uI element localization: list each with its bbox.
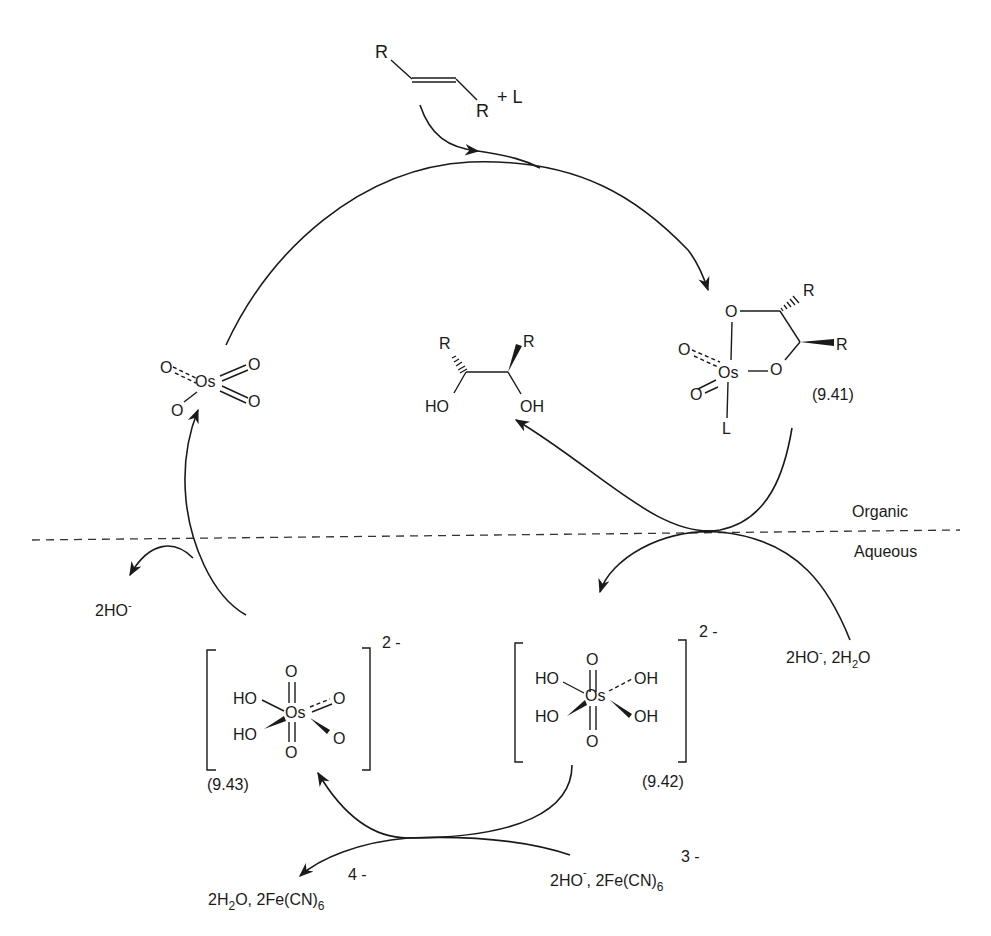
svg-text:R: R bbox=[803, 282, 815, 299]
svg-text:Os: Os bbox=[585, 687, 605, 704]
phase-boundary-line bbox=[32, 530, 960, 540]
svg-text:OH: OH bbox=[634, 670, 658, 687]
aq-inputs-right: 2HO-, 2H2O bbox=[786, 646, 871, 670]
label-9-42: (9.42) bbox=[642, 773, 684, 790]
svg-text:R: R bbox=[523, 333, 535, 350]
alkene-reactant: R R + L bbox=[375, 42, 523, 121]
svg-text:Os: Os bbox=[718, 364, 738, 381]
charge-943: 2 - bbox=[382, 634, 401, 651]
svg-text:OH: OH bbox=[634, 708, 658, 725]
osmium-tetroxide: O Os O O O bbox=[160, 356, 260, 419]
phase-label-aqueous: Aqueous bbox=[854, 543, 917, 560]
arc-ferricyanide-reduction bbox=[300, 837, 570, 876]
arc-943-to-oso4 bbox=[185, 410, 246, 615]
hydroxide-released: 2HO- bbox=[95, 599, 132, 619]
svg-text:O: O bbox=[690, 386, 702, 403]
arc-oso4-to-ester bbox=[226, 162, 708, 345]
oxidant-in-charge: 3 - bbox=[681, 848, 700, 865]
osmate-ester-9-41: O R R O Os O O L (9.41) bbox=[678, 282, 854, 437]
svg-text:O: O bbox=[586, 733, 598, 750]
svg-text:O: O bbox=[725, 303, 737, 320]
alkene-input-arrow bbox=[420, 105, 478, 151]
svg-text:O: O bbox=[285, 663, 297, 680]
species-9-42: 2 - O HO Os OH HO OH O (9.42) bbox=[515, 623, 718, 790]
svg-text:HO: HO bbox=[425, 398, 449, 415]
svg-text:HO: HO bbox=[535, 708, 559, 725]
svg-text:O: O bbox=[171, 402, 183, 419]
svg-text:O: O bbox=[678, 341, 690, 358]
svg-text:HO: HO bbox=[233, 726, 257, 743]
svg-text:HO: HO bbox=[535, 670, 559, 687]
svg-text:R: R bbox=[836, 336, 848, 353]
arc-ester-to-diol bbox=[516, 420, 792, 531]
oxidant-out: 2H2O, 2Fe(CN)6 bbox=[208, 891, 325, 913]
svg-text:HO: HO bbox=[233, 690, 257, 707]
svg-text:O: O bbox=[333, 690, 345, 707]
svg-text:R: R bbox=[439, 335, 451, 352]
label-9-41: (9.41) bbox=[812, 386, 854, 403]
hydroxide-release-arrow bbox=[130, 546, 193, 575]
svg-text:O: O bbox=[333, 730, 345, 747]
svg-text:R: R bbox=[375, 42, 388, 62]
plus-ligand: + L bbox=[497, 87, 523, 107]
oxidant-out-charge: 4 - bbox=[348, 866, 367, 883]
svg-text:L: L bbox=[722, 420, 731, 437]
oxidant-in: 2HO-, 2Fe(CN)6 bbox=[550, 866, 664, 894]
svg-text:O: O bbox=[586, 651, 598, 668]
svg-text:O: O bbox=[770, 361, 782, 378]
charge-942: 2 - bbox=[699, 623, 718, 640]
svg-text:Os: Os bbox=[195, 373, 215, 390]
arc-hydrolysis-to-942 bbox=[600, 532, 850, 640]
phase-label-organic: Organic bbox=[852, 503, 908, 520]
diol-product: R R HO OH bbox=[425, 333, 544, 415]
species-9-43: 2 - O HO Os O HO O O (9.43) bbox=[207, 634, 401, 793]
arc-942-to-943 bbox=[318, 765, 572, 838]
svg-text:R: R bbox=[476, 101, 489, 121]
svg-text:Os: Os bbox=[285, 704, 305, 721]
svg-text:O: O bbox=[285, 744, 297, 761]
catalytic-cycle-diagram: Organic Aqueous R R + L O R R O bbox=[0, 0, 991, 936]
svg-text:O: O bbox=[248, 393, 260, 410]
svg-text:O: O bbox=[160, 359, 172, 376]
label-9-43: (9.43) bbox=[207, 776, 249, 793]
svg-text:O: O bbox=[248, 356, 260, 373]
svg-text:OH: OH bbox=[520, 398, 544, 415]
